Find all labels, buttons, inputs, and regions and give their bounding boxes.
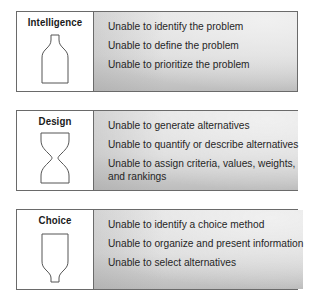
phase-label-cell: Intelligence [17,12,94,91]
issue-item: Unable to identify a choice method [108,218,303,231]
phase-issues-panel: Unable to identify the problem Unable to… [94,12,297,91]
phase-issues-panel: Unable to identify a choice method Unabl… [94,210,303,289]
hourglass-icon [40,132,70,184]
funnel-narrow-bottom-icon [41,233,69,283]
bottle-narrow-top-icon [41,34,69,84]
phase-choice: Choice Unable to identify a choice metho… [16,209,298,290]
phase-title: Design [22,115,89,127]
phase-label-cell: Choice [17,210,94,289]
phase-intelligence: Intelligence Unable to identify the prob… [16,11,298,92]
issue-item: Unable to quantify or describe alternati… [108,138,298,151]
issue-item: Unable to generate alternatives [108,119,298,132]
phase-label-cell: Design [17,111,94,190]
phase-title: Choice [22,214,89,226]
issue-item: Unable to identify the problem [108,20,297,33]
issue-item: Unable to prioritize the problem [108,58,297,71]
issue-item: Unable to select alternatives [108,256,303,269]
phase-title: Intelligence [22,16,89,28]
issue-item: Unable to organize and present informati… [108,237,303,250]
issue-item: Unable to assign criteria, values, weigh… [108,157,298,183]
phase-design: Design Unable to generate alternatives U… [16,110,298,191]
issue-item: Unable to define the problem [108,39,297,52]
phase-issues-panel: Unable to generate alternatives Unable t… [94,111,298,190]
